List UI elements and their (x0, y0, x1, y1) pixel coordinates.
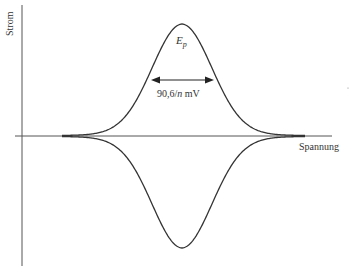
arrowhead-right (205, 77, 214, 84)
x-axis-label: Spannung (299, 141, 339, 152)
peak-label: Ep (175, 34, 187, 49)
half-width-label: 90,6/n mV (157, 88, 201, 99)
lower-peak-curve (62, 137, 305, 248)
y-axis-label: Strom (4, 11, 15, 36)
arrowhead-left (151, 77, 160, 84)
voltammogram-diagram: Strom Spannung Ep 90,6/n mV (0, 0, 362, 276)
speck (347, 87, 348, 88)
